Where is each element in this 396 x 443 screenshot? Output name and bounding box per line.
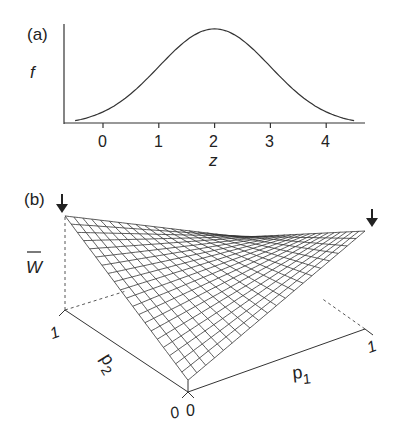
x-ticks bbox=[103, 123, 326, 128]
svg-text:1: 1 bbox=[302, 370, 312, 387]
p1-axis-label: p 1 bbox=[291, 361, 312, 388]
p2-tick-0: 0 bbox=[168, 403, 182, 422]
panel-b-label: (b) bbox=[24, 190, 45, 209]
x-tick-0: 0 bbox=[98, 133, 107, 150]
p2-tick-1: 1 bbox=[48, 323, 62, 342]
figure: (a) f 0 1 2 3 4 z (b) W 1 1 0 0 p 2 bbox=[0, 0, 396, 443]
x-tick-2: 2 bbox=[209, 133, 218, 150]
arrow-right-icon bbox=[366, 209, 378, 227]
panel-a-label: (a) bbox=[27, 25, 48, 44]
z-axis-label-w: W bbox=[26, 258, 44, 277]
panel-b: (b) W 1 1 0 0 p 2 p 1 bbox=[24, 190, 379, 422]
x-tick-1: 1 bbox=[154, 133, 163, 150]
x-axis-label-z: z bbox=[208, 151, 218, 170]
p2-axis-label: p 2 bbox=[92, 350, 123, 379]
p1-tick-1: 1 bbox=[365, 337, 379, 356]
y-axis-label-f: f bbox=[30, 63, 37, 82]
x-tick-4: 4 bbox=[321, 133, 330, 150]
gaussian-curve bbox=[75, 29, 354, 121]
x-tick-3: 3 bbox=[265, 133, 274, 150]
panel-a: (a) f 0 1 2 3 4 z bbox=[27, 24, 365, 170]
p1-tick-0: 0 bbox=[186, 402, 195, 419]
arrow-left-icon bbox=[56, 194, 68, 213]
